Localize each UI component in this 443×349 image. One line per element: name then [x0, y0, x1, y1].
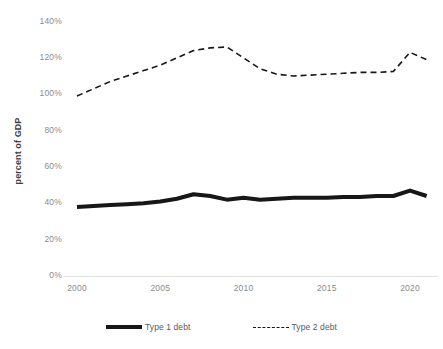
y-tick-label: 100% [16, 88, 62, 98]
x-tick-label: 2010 [234, 283, 254, 293]
series-line-2 [77, 47, 427, 96]
y-tick-label: 20% [16, 234, 62, 244]
legend-item-2[interactable]: Type 2 debt [253, 322, 338, 332]
y-tick-label: 60% [16, 161, 62, 171]
legend-label: Type 2 debt [292, 322, 338, 332]
dashed-line-icon [253, 327, 289, 328]
y-tick-label: 0% [16, 270, 62, 280]
x-tick-label: 2000 [67, 283, 87, 293]
solid-line-icon [106, 325, 142, 329]
chart-container: percent of GDP 0%20%40%60%80%100%120%140… [0, 0, 443, 349]
series-line-1 [77, 191, 427, 207]
x-tick-label: 2020 [400, 283, 420, 293]
x-tick-label: 2005 [150, 283, 170, 293]
plot-area [63, 18, 438, 276]
legend-label: Type 1 debt [145, 322, 191, 332]
y-tick-label: 120% [16, 52, 62, 62]
y-tick-label: 80% [16, 125, 62, 135]
x-axis-baseline [63, 276, 438, 277]
y-tick-label: 40% [16, 197, 62, 207]
series-svg [63, 18, 438, 276]
y-tick-label: 140% [16, 16, 62, 26]
x-tick-label: 2015 [317, 283, 337, 293]
x-axis-tick-labels: 20002005201020152020 [0, 283, 443, 299]
legend-item-1[interactable]: Type 1 debt [106, 322, 191, 332]
chart-legend: Type 1 debtType 2 debt [0, 316, 443, 338]
